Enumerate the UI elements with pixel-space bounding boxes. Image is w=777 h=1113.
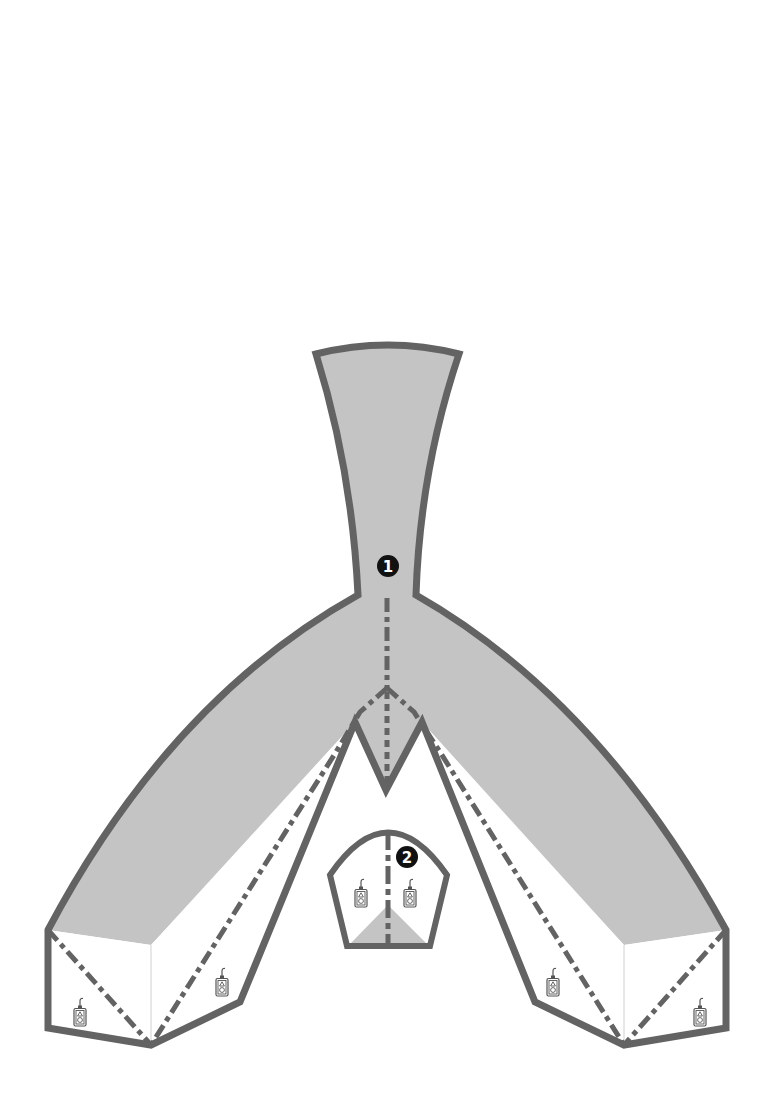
marker-2-label: 2 bbox=[402, 849, 412, 867]
floor-plan-diagram: 1 2 bbox=[0, 0, 777, 1113]
marker-1-label: 1 bbox=[383, 558, 393, 576]
marker-2: 2 bbox=[396, 846, 418, 868]
marker-1: 1 bbox=[377, 555, 399, 577]
room-2 bbox=[330, 832, 447, 946]
